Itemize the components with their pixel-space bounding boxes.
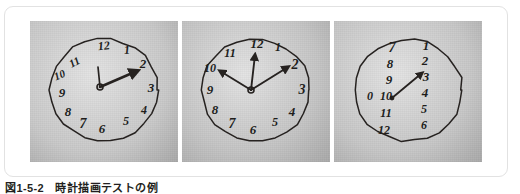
clock-numeral: 3 — [147, 80, 155, 95]
hand-to-10 — [220, 71, 251, 90]
clock-numeral: 10 — [380, 89, 392, 103]
clock-numeral: 9 — [207, 82, 214, 97]
clock-drawing-panel-1: 121234567891011 — [30, 21, 178, 162]
clock-numeral: 2 — [421, 53, 429, 68]
clock-numeral: 5 — [123, 114, 129, 128]
clock-drawing: 7890101112123456 — [334, 21, 482, 162]
clock-numeral: 8 — [387, 56, 394, 71]
clock-numeral: 10 — [204, 61, 216, 75]
clock-numeral: 0 — [367, 89, 373, 103]
single-hand — [392, 73, 422, 98]
clock-numeral: 5 — [272, 115, 278, 129]
clock-numeral: 8 — [212, 102, 219, 117]
clock-numeral: 4 — [421, 85, 429, 100]
figure-caption: 図1-5-2 時計描画テストの例 — [5, 179, 158, 188]
clock-numeral: 6 — [99, 121, 106, 136]
hand-to-12 — [251, 55, 255, 90]
clock-numeral: 3 — [298, 82, 306, 97]
clock-numeral: 6 — [250, 122, 257, 137]
clock-numeral: 10 — [52, 67, 67, 82]
clock-numeral: 3 — [422, 69, 430, 84]
clock-numeral: 12 — [378, 123, 390, 137]
clock-numeral: 9 — [386, 72, 393, 87]
clock-drawing-panel-row: 1212345678910111212345678910117890101112… — [5, 7, 507, 176]
clock-drawing-panel-3: 7890101112123456 — [334, 21, 482, 162]
clock-numeral: 5 — [421, 102, 427, 116]
clock-drawing: 121234567891011 — [30, 21, 178, 162]
clock-drawing: 121234567891011 — [182, 21, 330, 162]
clock-numeral: 12 — [251, 36, 265, 51]
clock-numeral: 12 — [97, 38, 110, 53]
clock-numeral: 7 — [389, 40, 397, 55]
clock-numeral: 4 — [140, 103, 147, 117]
hand-to-2 — [251, 67, 288, 90]
clock-numeral: 2 — [291, 57, 299, 72]
clock-numeral: 11 — [380, 106, 391, 120]
long-hand — [100, 71, 137, 87]
clock-drawing-panel-2: 121234567891011 — [182, 21, 330, 162]
clock-numeral: 1 — [423, 38, 430, 53]
clock-numeral: 7 — [229, 116, 237, 131]
clock-numeral: 8 — [65, 104, 72, 119]
clock-numeral: 11 — [224, 46, 235, 60]
clock-numeral: 2 — [139, 56, 147, 71]
clock-numeral: 1 — [123, 43, 130, 57]
figure-card: 1212345678910111212345678910117890101112… — [4, 6, 508, 177]
clock-numeral: 9 — [59, 85, 66, 100]
clock-numeral: 11 — [67, 54, 82, 69]
clock-numeral: 1 — [275, 40, 281, 54]
clock-numeral: 4 — [288, 104, 296, 119]
clock-numeral: 6 — [421, 118, 427, 132]
clock-numeral: 7 — [80, 116, 88, 131]
